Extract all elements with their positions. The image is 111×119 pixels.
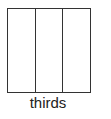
fraction-rectangle xyxy=(7,8,91,93)
third-part-1 xyxy=(8,9,35,92)
diagram-label: thirds xyxy=(0,94,96,112)
third-part-3 xyxy=(62,9,90,92)
third-part-2 xyxy=(35,9,63,92)
